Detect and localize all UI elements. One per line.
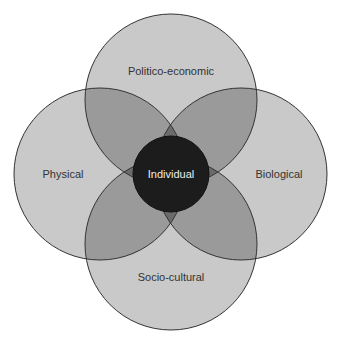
label-biological: Biological [255, 168, 302, 180]
venn-diagram: Politico-economic Physical Biological So… [0, 0, 340, 345]
label-individual: Individual [148, 168, 194, 180]
label-socio-cultural: Socio-cultural [138, 271, 205, 283]
label-politico-economic: Politico-economic [128, 65, 215, 77]
label-physical: Physical [43, 168, 84, 180]
